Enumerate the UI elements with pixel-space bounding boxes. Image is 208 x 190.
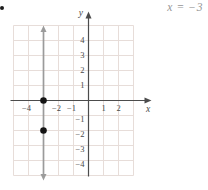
data-point	[40, 97, 47, 104]
coordinate-plane: −4−2−112 4321−1−2−3−4 x y	[0, 0, 208, 190]
y-tick-label: −2	[75, 129, 84, 139]
x-axis-letter: x	[145, 104, 151, 114]
x-tick-label: 1	[101, 103, 105, 113]
y-tick-label: 2	[80, 65, 84, 75]
data-point	[40, 127, 47, 134]
x-tick-label: −1	[67, 103, 76, 113]
x-tick-label: 2	[116, 103, 120, 113]
x-tick-labels: −4−2−112	[22, 103, 121, 113]
x-tick-label: −2	[52, 103, 61, 113]
line-arrow-down-icon	[41, 174, 47, 181]
y-tick-label: 3	[80, 50, 84, 60]
y-tick-label: −3	[75, 144, 84, 154]
y-tick-label: −4	[75, 159, 85, 169]
y-axis-arrow-icon	[86, 12, 92, 19]
y-axis-letter: y	[78, 8, 84, 18]
x-tick-label: −4	[22, 103, 32, 113]
line-arrow-up-icon	[41, 26, 47, 33]
y-tick-label: −1	[75, 114, 84, 124]
y-tick-label: 1	[80, 80, 84, 90]
